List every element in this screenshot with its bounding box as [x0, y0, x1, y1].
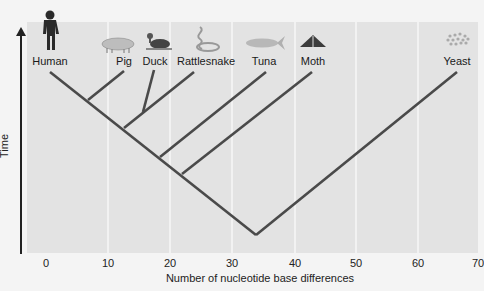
phylogenetic-tree — [0, 0, 484, 291]
taxon-label-tuna: Tuna — [252, 55, 277, 67]
taxon-label-duck: Duck — [142, 55, 167, 67]
rattlesnake-icon — [197, 27, 219, 51]
x-tick-40: 40 — [289, 257, 301, 269]
x-tick-60: 60 — [412, 257, 424, 269]
moth-icon — [300, 35, 326, 47]
branch-human-root — [50, 72, 256, 235]
taxon-label-human: Human — [32, 55, 67, 67]
taxon-label-yeast: Yeast — [443, 55, 470, 67]
x-axis-label: Number of nucleotide base differences — [166, 272, 354, 284]
taxon-label-rattlesnake: Rattlesnake — [177, 55, 235, 67]
x-tick-0: 0 — [43, 257, 49, 269]
taxon-label-moth: Moth — [301, 55, 325, 67]
branch-tuna — [160, 72, 266, 157]
human-silhouette-icon — [43, 11, 59, 51]
pig-icon — [102, 38, 134, 53]
x-tick-50: 50 — [350, 257, 362, 269]
branch-pig — [88, 71, 124, 100]
x-tick-30: 30 — [226, 257, 238, 269]
x-tick-10: 10 — [102, 257, 114, 269]
x-tick-70: 70 — [472, 257, 484, 269]
taxon-label-pig: Pig — [116, 55, 132, 67]
branch-rattlesnake — [124, 72, 194, 128]
tuna-icon — [246, 36, 285, 50]
duck-icon — [146, 33, 172, 50]
branch-yeast — [256, 72, 457, 235]
x-tick-20: 20 — [164, 257, 176, 269]
yeast-icon — [446, 32, 469, 45]
